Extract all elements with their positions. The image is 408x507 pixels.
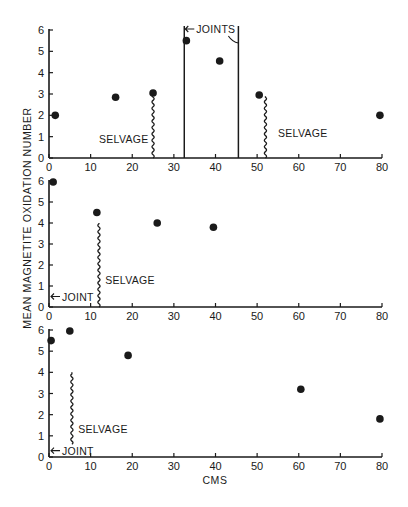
data-point	[93, 209, 101, 217]
x-tick-label: 40	[209, 161, 221, 173]
data-point	[66, 327, 74, 335]
y-tick-label: 2	[38, 109, 44, 121]
joint-arrow	[51, 294, 60, 300]
x-tick-label: 50	[251, 161, 263, 173]
data-point	[210, 223, 218, 231]
y-axis-title: MEAN MAGNETITE OXIDATION NUMBER	[21, 107, 33, 328]
x-tick-label: 30	[168, 460, 180, 472]
y-tick-label: 1	[38, 131, 44, 143]
x-tick-label: 10	[85, 310, 97, 322]
data-point	[297, 385, 305, 393]
chart-svg: 010203040506070800123456SELVAGESELVAGEJO…	[0, 0, 408, 507]
x-tick-label: 50	[251, 310, 263, 322]
selvage-marker	[152, 94, 154, 158]
y-tick-label: 5	[38, 196, 44, 208]
y-tick-label: 6	[38, 175, 44, 187]
y-tick-label: 3	[38, 88, 44, 100]
x-tick-label: 10	[85, 161, 97, 173]
joint-arrow	[185, 26, 194, 32]
y-tick-label: 3	[38, 388, 44, 400]
joint-label: JOINT	[62, 445, 94, 457]
selvage-label: SELVAGE	[99, 133, 149, 145]
chart-figure: 010203040506070800123456SELVAGESELVAGEJO…	[0, 0, 408, 507]
data-point	[149, 89, 157, 97]
y-tick-label: 0	[38, 451, 44, 463]
x-tick-label: 60	[293, 161, 305, 173]
panel-middle: 010203040506070800123456SELVAGEJOINT	[38, 175, 388, 322]
data-point	[216, 57, 224, 65]
joint-label: JOINT	[62, 291, 94, 303]
data-point	[124, 352, 132, 360]
x-tick-label: 10	[85, 460, 97, 472]
data-point	[376, 415, 384, 423]
x-tick-label: 80	[376, 310, 388, 322]
joint-arrow	[51, 448, 60, 454]
data-point	[49, 178, 57, 186]
y-tick-label: 6	[38, 324, 44, 336]
selvage-marker	[71, 372, 73, 444]
data-point	[183, 37, 191, 45]
x-tick-label: 50	[251, 460, 263, 472]
selvage-marker	[264, 96, 266, 158]
data-point	[255, 91, 263, 99]
joints-label: JOINTS	[196, 23, 235, 35]
y-tick-label: 4	[38, 217, 44, 229]
x-tick-label: 30	[168, 161, 180, 173]
x-tick-label: 80	[376, 460, 388, 472]
y-tick-label: 1	[38, 430, 44, 442]
panel-bottom: 010203040506070800123456SELVAGEJOINT	[38, 324, 388, 472]
panel-top: 010203040506070800123456SELVAGESELVAGEJO…	[38, 23, 388, 173]
y-tick-label: 6	[38, 24, 44, 36]
data-point	[153, 219, 161, 227]
x-tick-label: 70	[334, 161, 346, 173]
x-tick-label: 0	[46, 310, 52, 322]
y-tick-label: 2	[38, 409, 44, 421]
x-tick-label: 80	[376, 161, 388, 173]
x-axis-title: CMS	[202, 474, 227, 486]
y-tick-label: 4	[38, 366, 44, 378]
x-tick-label: 40	[209, 460, 221, 472]
x-tick-label: 70	[334, 460, 346, 472]
data-point	[47, 337, 55, 345]
y-tick-label: 1	[38, 280, 44, 292]
y-tick-label: 5	[38, 45, 44, 57]
selvage-label: SELVAGE	[105, 274, 155, 286]
x-tick-label: 20	[126, 460, 138, 472]
y-tick-label: 5	[38, 345, 44, 357]
x-tick-label: 20	[126, 161, 138, 173]
y-tick-label: 0	[38, 301, 44, 313]
selvage-marker	[98, 223, 100, 307]
x-tick-label: 30	[168, 310, 180, 322]
y-tick-label: 4	[38, 67, 44, 79]
data-point	[376, 112, 384, 120]
x-tick-label: 0	[46, 460, 52, 472]
x-tick-label: 40	[209, 310, 221, 322]
x-tick-label: 60	[293, 460, 305, 472]
selvage-label: SELVAGE	[78, 423, 128, 435]
selvage-label: SELVAGE	[278, 127, 328, 139]
joint-pointer	[228, 36, 238, 43]
x-tick-label: 60	[293, 310, 305, 322]
y-tick-label: 0	[38, 152, 44, 164]
x-tick-label: 20	[126, 310, 138, 322]
x-tick-label: 70	[334, 310, 346, 322]
y-tick-label: 3	[38, 238, 44, 250]
y-tick-label: 2	[38, 259, 44, 271]
data-point	[51, 112, 59, 120]
x-tick-label: 0	[46, 161, 52, 173]
data-point	[112, 93, 120, 101]
